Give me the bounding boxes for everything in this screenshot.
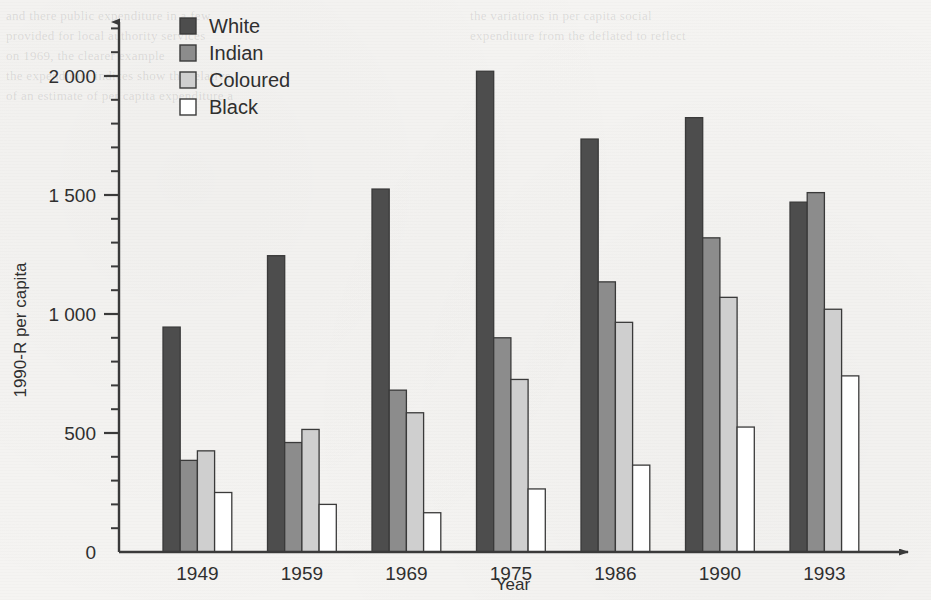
bar-black-1986 (633, 465, 650, 552)
figure-page: and there public expenditure in a few pr… (0, 0, 931, 600)
y-tick-label: 1 000 (48, 304, 96, 325)
bar-coloured-1975 (511, 379, 528, 552)
bar-black-1959 (319, 504, 336, 552)
legend-swatch-white (180, 18, 196, 34)
legend-label-black: Black (209, 96, 259, 118)
legend-label-indian: Indian (209, 42, 264, 64)
bar-indian-1993 (807, 193, 824, 552)
legend-swatch-indian (180, 45, 196, 61)
x-tick-label: 1969 (385, 563, 427, 584)
bar-indian-1969 (389, 390, 406, 552)
y-axis-title: 1990-R per capita (11, 262, 30, 398)
x-axis-title: Year (496, 575, 531, 594)
y-tick-label: 500 (64, 423, 96, 444)
bar-white-1949 (163, 327, 180, 552)
bar-coloured-1969 (406, 413, 423, 552)
bar-coloured-1990 (720, 297, 737, 552)
bar-white-1990 (686, 118, 703, 552)
y-tick-label: 2 000 (48, 66, 96, 87)
bar-black-1990 (737, 427, 754, 552)
bar-indian-1990 (703, 238, 720, 552)
bar-coloured-1959 (302, 429, 319, 552)
legend-swatch-coloured (180, 72, 196, 88)
bar-white-1975 (477, 71, 494, 552)
bar-coloured-1949 (197, 451, 214, 552)
bar-black-1993 (842, 376, 859, 552)
x-tick-label: 1993 (803, 563, 845, 584)
bar-indian-1975 (494, 338, 511, 552)
bar-chart: 05001 0001 5002 000 19491959196919751986… (0, 0, 931, 600)
y-tick-label: 1 500 (48, 185, 96, 206)
y-tick-label: 0 (85, 542, 96, 563)
bar-black-1975 (528, 489, 545, 552)
bar-indian-1959 (285, 443, 302, 552)
bar-white-1986 (581, 139, 598, 552)
legend-label-white: White (209, 15, 260, 37)
y-axis: 05001 0001 5002 000 (48, 28, 119, 563)
bar-black-1949 (215, 493, 232, 553)
bars-layer (163, 71, 859, 552)
bar-white-1969 (372, 189, 389, 552)
x-tick-label: 1949 (176, 563, 218, 584)
legend-swatch-black (180, 99, 196, 115)
bar-indian-1949 (180, 460, 197, 552)
bar-indian-1986 (598, 282, 615, 552)
bar-coloured-1986 (615, 322, 632, 552)
bar-coloured-1993 (824, 309, 841, 552)
bar-white-1959 (268, 256, 285, 552)
bar-black-1969 (424, 513, 441, 552)
bar-white-1993 (790, 202, 807, 552)
legend-label-coloured: Coloured (209, 69, 290, 91)
chart-legend: WhiteIndianColouredBlack (180, 15, 290, 118)
x-tick-label: 1959 (281, 563, 323, 584)
x-tick-label: 1986 (594, 563, 636, 584)
x-tick-label: 1990 (699, 563, 741, 584)
